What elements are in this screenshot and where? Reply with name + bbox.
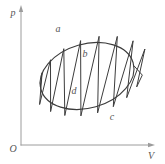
origin-label: O bbox=[9, 144, 16, 154]
figure-canvas bbox=[0, 0, 165, 164]
y-axis-label: p bbox=[11, 8, 16, 18]
point-label-b: b bbox=[83, 49, 88, 59]
pv-diagram: p V O abdc bbox=[0, 0, 165, 164]
x-axis-label: V bbox=[148, 151, 154, 161]
cycle-curve bbox=[32, 32, 142, 120]
y-axis-arrow-icon bbox=[19, 5, 23, 12]
point-label-d: d bbox=[72, 86, 77, 96]
x-axis-arrow-icon bbox=[148, 143, 155, 147]
point-label-a: a bbox=[56, 24, 61, 34]
point-label-c: c bbox=[110, 112, 114, 122]
hatch-zigzag bbox=[40, 36, 145, 116]
